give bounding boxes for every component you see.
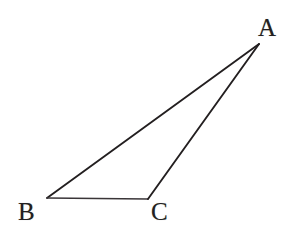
vertex-label-b: B <box>18 199 35 224</box>
geometry-figure-canvas: A B C <box>0 0 298 238</box>
diagram-background <box>0 0 298 238</box>
vertex-label-c: C <box>151 199 168 224</box>
triangle-edge-bc <box>47 198 148 199</box>
vertex-label-a: A <box>258 15 276 40</box>
triangle-diagram <box>0 0 298 238</box>
